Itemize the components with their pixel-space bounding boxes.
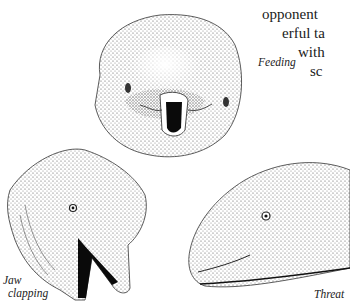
caption-threat: Threat [314, 288, 344, 301]
caption-jaw-clapping-line2: clapping [8, 287, 48, 300]
caption-jaw-clapping-line1: Jaw [3, 274, 22, 287]
jaw-clapping-head-drawing [8, 149, 147, 300]
caption-feeding: Feeding [258, 56, 296, 69]
threat-head-drawing [189, 163, 350, 287]
beluga-illustration [0, 0, 350, 303]
feeding-head-drawing [95, 15, 242, 157]
